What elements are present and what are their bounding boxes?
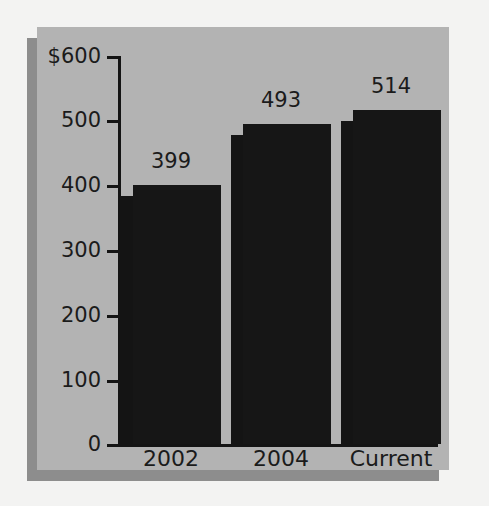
y-tick-label-100: 100 bbox=[11, 370, 101, 391]
bar-value-label-2004: 493 bbox=[231, 90, 331, 111]
y-tick-label-0: 0 bbox=[11, 434, 101, 455]
bar-side-face-2002 bbox=[121, 196, 133, 444]
y-tick-label-600: $600 bbox=[11, 46, 101, 67]
y-tick-label-300: 300 bbox=[11, 240, 101, 261]
y-tick-400 bbox=[107, 185, 119, 188]
x-axis-label-2004: 2004 bbox=[231, 448, 331, 470]
y-tick-label-400: 400 bbox=[11, 175, 101, 196]
y-tick-100 bbox=[107, 380, 119, 383]
bar-value-label-current: 514 bbox=[341, 76, 441, 97]
bar-front-face-current bbox=[353, 110, 441, 444]
y-tick-label-200: 200 bbox=[11, 305, 101, 326]
chart-figure: $600 500 400 300 200 100 0 399 bbox=[0, 0, 489, 506]
x-axis-label-2002: 2002 bbox=[121, 448, 221, 470]
y-tick-600 bbox=[107, 56, 119, 59]
chart-panel: $600 500 400 300 200 100 0 399 bbox=[37, 27, 449, 470]
y-tick-0 bbox=[107, 444, 119, 447]
y-tick-300 bbox=[107, 250, 119, 253]
y-tick-500 bbox=[107, 120, 119, 123]
plot-area: $600 500 400 300 200 100 0 399 bbox=[37, 27, 449, 470]
bar-side-face-current bbox=[341, 121, 353, 444]
bar-side-face-2004 bbox=[231, 135, 243, 444]
bar-value-label-2002: 399 bbox=[121, 151, 221, 172]
x-axis-label-current: Current bbox=[336, 448, 446, 470]
y-tick-200 bbox=[107, 315, 119, 318]
bar-front-face-2004 bbox=[243, 124, 331, 444]
bar-front-face-2002 bbox=[133, 185, 221, 444]
y-tick-label-500: 500 bbox=[11, 110, 101, 131]
